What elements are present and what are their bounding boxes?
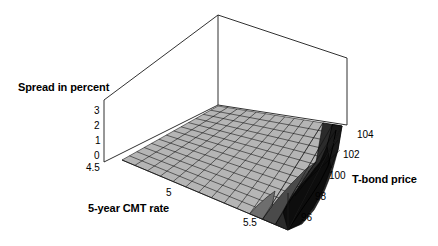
y-axis-tick-96: 96 — [301, 213, 312, 223]
surface-plot-figure: Spread in percent 3 2 1 0 4.5 5 5.5 5-ye… — [0, 0, 438, 246]
y-axis-tick-98: 98 — [315, 192, 326, 202]
x-axis-tick-4-5: 4.5 — [86, 163, 100, 173]
y-axis-tick-104: 104 — [357, 130, 374, 140]
y-axis-title: T-bond price — [352, 174, 417, 185]
z-axis-tick-2: 2 — [94, 121, 100, 131]
x-axis-tick-5: 5 — [166, 188, 172, 198]
z-axis-tick-3: 3 — [94, 106, 100, 116]
x-axis-tick-5-5: 5.5 — [243, 218, 257, 228]
x-axis-title: 5-year CMT rate — [88, 203, 169, 214]
plot-canvas — [0, 0, 438, 246]
z-axis-tick-0: 0 — [94, 151, 100, 161]
z-axis-title: Spread in percent — [18, 82, 109, 93]
y-axis-tick-100: 100 — [329, 171, 346, 181]
y-axis-tick-102: 102 — [343, 150, 360, 160]
z-axis-tick-1: 1 — [95, 136, 101, 146]
